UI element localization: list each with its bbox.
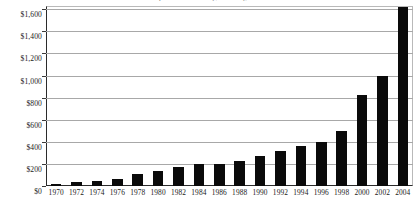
bars-layer — [46, 6, 413, 186]
x-axis-label: 2004 — [393, 188, 413, 198]
y-axis-tick — [42, 186, 46, 187]
bar — [112, 179, 123, 186]
y-axis-label: $1,200 — [21, 55, 42, 63]
bar — [214, 164, 225, 186]
x-axis-label: 1974 — [87, 188, 107, 198]
bar — [234, 161, 245, 186]
bar — [377, 76, 388, 186]
y-axis-label: $0 — [34, 188, 42, 196]
x-axis-label: 1980 — [148, 188, 168, 198]
y-axis-label: $400 — [26, 144, 42, 152]
x-axis-label: 1994 — [291, 188, 311, 198]
bar — [316, 142, 327, 186]
y-axis-label: $800 — [26, 100, 42, 108]
x-axis-label: 1992 — [270, 188, 290, 198]
chart-title: U.S. Imports from China ($ billions), 19… — [0, 0, 417, 1]
x-axis-label: 1982 — [168, 188, 188, 198]
x-axis-label: 1978 — [128, 188, 148, 198]
bar — [173, 167, 184, 186]
x-axis-label: 1998 — [331, 188, 351, 198]
bar — [357, 95, 368, 186]
bar — [398, 7, 409, 186]
x-axis-label: 1986 — [209, 188, 229, 198]
x-axis-label: 2002 — [372, 188, 392, 198]
x-axis-label: 1972 — [66, 188, 86, 198]
y-axis-label: $1,400 — [21, 33, 42, 41]
y-axis-label: $200 — [26, 166, 42, 174]
x-axis-label: 1990 — [250, 188, 270, 198]
y-axis-label: $600 — [26, 122, 42, 130]
bar — [132, 174, 143, 186]
y-axis-label: $1,000 — [21, 78, 42, 86]
x-axis-label: 1988 — [230, 188, 250, 198]
x-axis-label: 1996 — [311, 188, 331, 198]
bar — [275, 151, 286, 186]
bar — [153, 171, 164, 186]
bar — [336, 131, 347, 186]
bar-chart: U.S. Imports from China ($ billions), 19… — [0, 0, 417, 207]
bar — [255, 156, 266, 186]
bar — [51, 184, 62, 186]
x-axis-label: 1984 — [189, 188, 209, 198]
bar — [71, 182, 82, 186]
x-axis-label: 2000 — [352, 188, 372, 198]
bar — [194, 164, 205, 186]
x-axis-label: 1976 — [107, 188, 127, 198]
x-axis: 1970197219741976197819801982198419861988… — [46, 188, 413, 202]
x-axis-label: 1970 — [46, 188, 66, 198]
bar — [296, 146, 307, 186]
y-axis-label: $1,600 — [21, 11, 42, 19]
bar — [92, 181, 103, 186]
y-axis: $0$200$400$600$800$1,000$1,200$1,400$1,6… — [0, 6, 42, 186]
